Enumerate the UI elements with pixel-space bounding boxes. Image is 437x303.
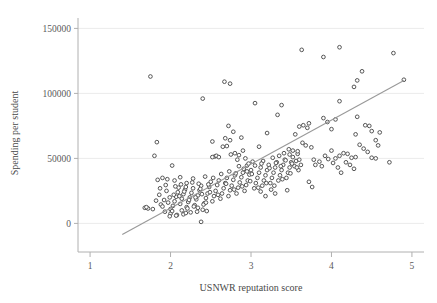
x-tick-label: 3 [249,261,254,271]
data-point [274,161,278,165]
data-point [208,190,212,194]
data-point [238,181,242,185]
data-point [165,177,169,181]
data-point [305,126,309,130]
data-point [360,69,364,73]
data-point [194,196,198,200]
data-point [280,103,284,107]
data-point [156,178,160,182]
data-point [271,156,275,160]
data-point [170,164,174,168]
data-point [153,154,157,158]
data-point [253,101,257,105]
data-point [272,171,276,175]
data-point [301,123,305,127]
data-point [310,146,314,150]
data-point [184,211,188,215]
data-point [354,155,358,159]
data-point [348,163,352,167]
data-point [300,48,304,52]
data-point [236,186,240,190]
data-point [211,176,215,180]
data-point [199,220,203,224]
data-point [145,205,149,209]
data-point [212,194,216,198]
data-point [259,190,263,194]
data-point [260,162,264,166]
data-point [227,124,231,128]
data-point [230,184,234,188]
data-point [282,151,286,155]
data-point [265,131,269,135]
data-point [273,192,277,196]
data-point [350,156,354,160]
data-point [168,196,172,200]
data-point [149,75,153,79]
data-point [256,186,260,190]
data-point [370,129,374,133]
data-point [268,166,272,170]
data-point [310,185,314,189]
data-point [176,190,180,194]
data-point [336,166,340,170]
data-point [374,157,378,161]
data-point [185,181,189,185]
data-point [174,214,178,218]
data-point [231,130,235,134]
data-point [228,82,232,86]
data-point [256,176,260,180]
data-point [164,183,168,187]
y-tick-label: 0 [66,219,71,229]
data-point [312,158,316,162]
data-point [216,193,220,197]
data-point [240,185,244,189]
x-tick-label: 4 [329,261,334,271]
chart-background [0,0,437,303]
data-point [197,182,201,186]
data-point [293,133,297,137]
data-point [217,155,221,159]
data-point [204,196,208,200]
data-point [331,161,335,165]
y-tick-label: 50000 [47,154,71,164]
data-point [376,144,380,148]
data-point [358,143,362,147]
x-tick-label: 2 [168,261,173,271]
data-point [157,193,161,197]
data-point [322,55,326,59]
data-point [257,145,261,149]
data-point [223,136,227,140]
data-point [279,164,283,168]
y-tick-label: 150000 [43,24,72,34]
data-point [235,192,239,196]
data-point [320,164,324,168]
data-point [259,166,263,170]
data-point [254,181,258,185]
data-point [219,197,223,201]
data-point [191,186,195,190]
data-point [287,147,291,151]
data-point [165,189,169,193]
data-point [334,157,338,161]
data-point [392,51,396,55]
data-point [219,172,223,176]
data-point [290,162,294,166]
data-point [291,149,295,153]
data-point [192,205,196,209]
data-point [297,158,301,162]
data-point [201,208,205,212]
data-point [228,138,232,142]
data-point [184,185,188,189]
data-point [307,180,311,184]
x-tick-label: 5 [410,261,415,271]
data-point [227,170,231,174]
data-point [323,154,327,158]
data-point [304,144,308,148]
data-point [151,207,155,211]
data-point [229,153,233,157]
data-point [318,160,322,164]
data-point [178,194,182,198]
data-point [352,167,356,171]
data-point [342,151,346,155]
data-point [284,159,288,163]
